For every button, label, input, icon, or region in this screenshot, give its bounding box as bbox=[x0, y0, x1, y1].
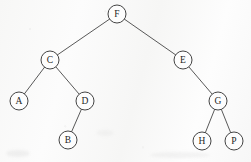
tree-node-p[interactable]: P bbox=[225, 132, 243, 150]
tree-edge-f-e bbox=[125, 19, 176, 54]
edges-layer bbox=[25, 19, 231, 132]
node-label-h: H bbox=[199, 136, 206, 146]
tree-node-b[interactable]: B bbox=[59, 131, 77, 149]
tree-edge-f-c bbox=[58, 19, 110, 55]
tree-edge-g-p bbox=[221, 110, 230, 133]
tree-node-h[interactable]: H bbox=[193, 132, 211, 150]
node-label-d: D bbox=[82, 96, 89, 106]
tree-graphic: FCEADGBHP bbox=[0, 0, 251, 162]
tree-node-a[interactable]: A bbox=[10, 92, 28, 110]
tree-node-f[interactable]: F bbox=[108, 5, 126, 23]
node-label-c: C bbox=[47, 55, 53, 65]
tree-node-g[interactable]: G bbox=[209, 92, 227, 110]
tree-edge-c-d bbox=[56, 67, 79, 94]
node-label-e: E bbox=[180, 55, 186, 65]
node-label-b: B bbox=[65, 135, 71, 145]
node-label-a: A bbox=[16, 96, 23, 106]
tree-edge-e-g bbox=[189, 67, 212, 94]
tree-node-d[interactable]: D bbox=[76, 92, 94, 110]
tree-edge-d-b bbox=[72, 109, 82, 131]
tree-node-c[interactable]: C bbox=[41, 51, 59, 69]
node-label-f: F bbox=[114, 9, 119, 19]
nodes-layer: FCEADGBHP bbox=[10, 5, 243, 150]
tree-edge-c-a bbox=[25, 67, 45, 93]
tree-diagram-canvas: FCEADGBHP bbox=[0, 0, 251, 162]
node-label-g: G bbox=[215, 96, 222, 106]
tree-node-e[interactable]: E bbox=[174, 51, 192, 69]
tree-edge-g-h bbox=[205, 110, 214, 133]
node-label-p: P bbox=[231, 136, 236, 146]
